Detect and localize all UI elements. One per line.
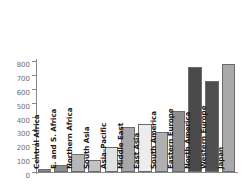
bar-category-label: Eastern Europe (166, 108, 175, 169)
bar-category-label: E. and S. Africa (49, 109, 58, 169)
bar-category-label: Japan (216, 147, 225, 169)
bar-category-label: Asia–Pacific (99, 123, 108, 169)
bar-category-label: Western Europe (199, 106, 208, 169)
bar-chart: 8007006005004003002001000 Central Africa… (0, 0, 248, 195)
x-axis-line (36, 172, 238, 173)
bar[interactable]: Central Africa (38, 169, 51, 172)
bar[interactable]: Japan (222, 64, 235, 172)
bar-category-label: Middle East (116, 123, 125, 169)
bar-category-label: Northern Africa (65, 108, 74, 169)
bar-category-label: South America (149, 111, 158, 169)
bar-category-label: Central Africa (32, 115, 41, 169)
plot-area: Central AfricaE. and S. AfricaNorthern A… (36, 61, 237, 172)
bar-category-label: South Asia (82, 127, 91, 169)
y-axis-tick-label: 0 (0, 163, 30, 182)
bar-category-label: North America (183, 112, 192, 169)
bar-category-label: East Asia (132, 133, 141, 169)
